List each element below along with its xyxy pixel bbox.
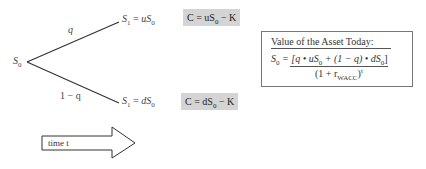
up-node-label: S1 = uS0	[122, 13, 155, 24]
fraction-bar	[290, 66, 388, 67]
formula-numerator: S0 = [q • uS0 + (1 − q) • dS0]	[271, 53, 388, 64]
time-arrow-label: time t	[48, 138, 69, 148]
asset-value-formula-box: Value of the Asset Today: S0 = [q • uS0 …	[261, 31, 413, 87]
up-probability-label: q	[68, 24, 73, 35]
down-payoff-box: C = dS0 − K	[181, 93, 238, 110]
formula-denominator: (1 + rWACC)t	[315, 68, 363, 79]
down-probability-label: 1 − q	[60, 90, 81, 101]
up-branch-line	[27, 22, 119, 62]
up-payoff-box: C = uS0 − K	[183, 9, 240, 26]
down-node-label: S1 = dS0	[122, 95, 155, 106]
root-node-label: S0	[13, 55, 22, 66]
formula-title: Value of the Asset Today:	[271, 36, 391, 49]
